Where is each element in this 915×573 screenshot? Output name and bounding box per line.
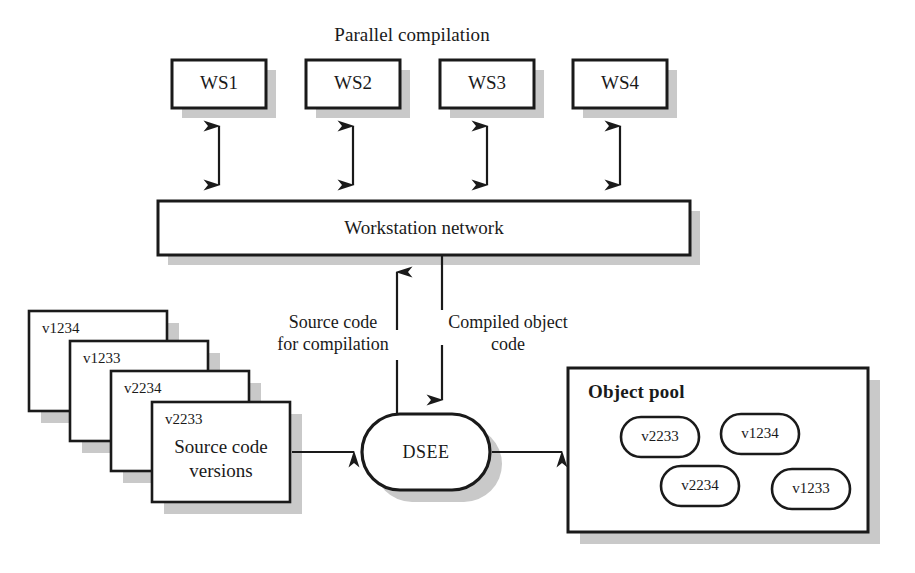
network-node[interactable] bbox=[158, 201, 690, 255]
workstation-node-ws3[interactable] bbox=[440, 60, 534, 108]
workstation-node-ws2[interactable] bbox=[306, 60, 400, 108]
source-versions-stack[interactable] bbox=[152, 402, 290, 502]
workstation-node-ws4[interactable] bbox=[573, 60, 667, 108]
dsee-node-target[interactable] bbox=[362, 414, 490, 490]
diagram-canvas: Parallel compilation WS1 WS2 WS3 WS4 Wor… bbox=[0, 0, 915, 573]
object-pool-node[interactable] bbox=[568, 368, 868, 532]
workstation-node-ws1[interactable] bbox=[172, 60, 266, 108]
